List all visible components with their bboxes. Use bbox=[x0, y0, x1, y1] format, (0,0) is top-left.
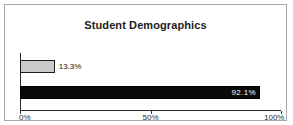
x-axis-tick-label: 50% bbox=[143, 113, 159, 122]
bar-value-label-2: 92.1% bbox=[231, 88, 256, 97]
chart-frame: Student Demographics 13.3%92.1% 0%50%100… bbox=[4, 4, 287, 121]
bar-value-label-1: 13.3% bbox=[59, 62, 82, 71]
x-axis-tick-label: 0% bbox=[19, 113, 31, 122]
bar-2[interactable] bbox=[20, 86, 260, 99]
x-axis-tick-label: 100% bbox=[264, 113, 284, 122]
plot-area: 13.3%92.1% bbox=[20, 53, 281, 110]
chart-title: Student Demographics bbox=[5, 19, 286, 31]
bar-1[interactable] bbox=[20, 60, 55, 73]
